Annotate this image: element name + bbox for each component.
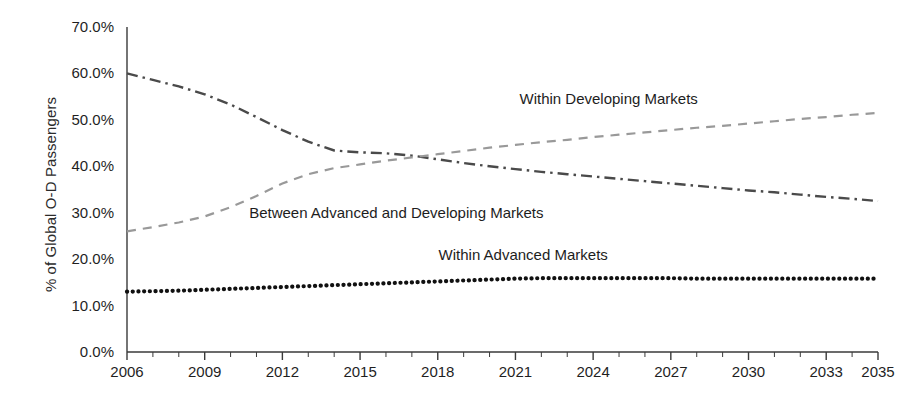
x-axis-tick-label: 2009 xyxy=(175,363,235,380)
x-axis-tick-label: 2035 xyxy=(848,363,908,380)
x-axis-tick-label: 2030 xyxy=(719,363,779,380)
series-label-2: Within Advanced Markets xyxy=(439,246,608,263)
y-axis-tick-label: 50.0% xyxy=(52,111,114,128)
chart-container: % of Global O-D Passengers 70.0%60.0%50.… xyxy=(0,0,913,408)
y-axis-tick-label: 60.0% xyxy=(52,64,114,81)
y-axis-tick-label: 20.0% xyxy=(52,250,114,267)
series-line-0 xyxy=(127,73,878,201)
chart-axes xyxy=(127,27,878,352)
x-axis-tick-label: 2015 xyxy=(330,363,390,380)
y-axis-tick-label: 70.0% xyxy=(52,18,114,35)
series-label-0: Between Advanced and Developing Markets xyxy=(249,204,543,221)
y-axis-tick-label: 40.0% xyxy=(52,157,114,174)
x-axis-tick-label: 2021 xyxy=(485,363,545,380)
x-axis-tick-label: 2018 xyxy=(408,363,468,380)
y-axis-tick-label: 10.0% xyxy=(52,297,114,314)
series-label-1: Within Developing Markets xyxy=(519,90,697,107)
x-axis-ticks xyxy=(127,352,878,360)
y-axis-tick-label: 30.0% xyxy=(52,204,114,221)
series-line-2 xyxy=(127,278,878,291)
x-axis-tick-label: 2012 xyxy=(252,363,312,380)
x-axis-tick-label: 2027 xyxy=(641,363,701,380)
x-axis-tick-label: 2006 xyxy=(97,363,157,380)
y-axis-tick-label: 0.0% xyxy=(52,343,114,360)
x-axis-tick-label: 2024 xyxy=(563,363,623,380)
